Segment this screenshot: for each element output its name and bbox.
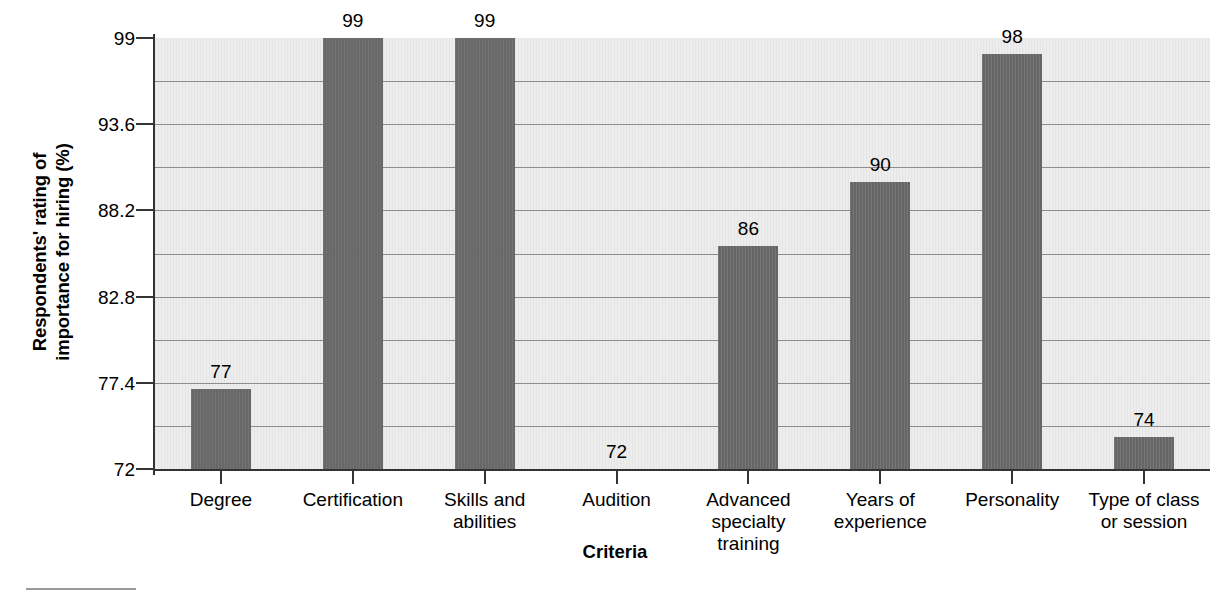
gridline <box>155 167 1210 168</box>
bar-value-label: 72 <box>567 442 667 461</box>
y-axis-tick-label: 82.8 <box>40 287 135 306</box>
gridline-major <box>155 297 1210 298</box>
bar-scan-texture <box>718 246 778 469</box>
x-axis-tick-label-line: Certification <box>287 489 419 511</box>
gridline-major <box>155 124 1210 125</box>
bar <box>191 389 251 469</box>
y-axis-tick-label: 77.4 <box>40 373 135 392</box>
bar-value-label: 86 <box>698 219 798 238</box>
x-axis-tick-label: Personality <box>946 489 1078 511</box>
y-axis-tick-mark <box>136 382 154 384</box>
x-axis-tick-mark <box>879 471 881 484</box>
x-axis-tick-label-line: abilities <box>419 511 551 533</box>
x-axis-tick-label-line: Advanced <box>683 489 815 511</box>
bar-value-label: 99 <box>435 11 535 30</box>
x-axis-tick-label: Type of classor session <box>1078 489 1210 533</box>
x-axis-tick-label-line: experience <box>814 511 946 533</box>
y-axis-line <box>153 34 155 475</box>
x-axis-tick-mark <box>747 471 749 484</box>
bar <box>718 246 778 469</box>
x-axis-tick-label-line: or session <box>1078 511 1210 533</box>
x-axis-tick-label-line: Degree <box>155 489 287 511</box>
bar-scan-texture <box>982 54 1042 469</box>
x-axis-tick-mark <box>484 471 486 484</box>
x-axis-tick-mark <box>352 471 354 484</box>
x-axis-tick-label: Years ofexperience <box>814 489 946 533</box>
bar <box>323 38 383 469</box>
y-axis-tick-labels: 9993.688.282.877.472 <box>40 0 135 598</box>
x-axis-tick-label: Skills andabilities <box>419 489 551 533</box>
bar-scan-texture <box>323 38 383 469</box>
x-axis-tick-label-line: Years of <box>814 489 946 511</box>
bar <box>455 38 515 469</box>
y-axis-tick-label: 72 <box>40 460 135 479</box>
bar-scan-texture <box>850 182 910 469</box>
bar <box>1114 437 1174 469</box>
bar-value-label: 99 <box>303 11 403 30</box>
bar-chart-figure: Respondents' rating of importance for hi… <box>0 0 1230 598</box>
x-axis-tick-label-line: Personality <box>946 489 1078 511</box>
x-axis-tick-label-line: Skills and <box>419 489 551 511</box>
x-axis-line <box>153 469 1210 471</box>
x-axis-tick-label-line: Audition <box>551 489 683 511</box>
gridline-major <box>155 383 1210 384</box>
bar-value-label: 74 <box>1094 410 1194 429</box>
bar-scan-texture <box>1114 437 1174 469</box>
gridline <box>155 426 1210 427</box>
gridline <box>155 254 1210 255</box>
x-axis-tick-mark <box>1011 471 1013 484</box>
x-axis-tick-label-line: Type of class <box>1078 489 1210 511</box>
x-axis-tick-label: Certification <box>287 489 419 511</box>
x-axis-title: Criteria <box>0 541 1230 563</box>
bar-value-label: 77 <box>171 362 271 381</box>
x-axis-tick-label-line: specialty training <box>683 511 815 555</box>
x-axis-tick-label: Degree <box>155 489 287 511</box>
y-axis-tick-mark <box>136 123 154 125</box>
gridline <box>155 81 1210 82</box>
y-axis-tick-mark <box>136 209 154 211</box>
bar-value-label: 90 <box>830 155 930 174</box>
bar-scan-texture <box>191 389 251 469</box>
x-axis-tick-label: Audition <box>551 489 683 511</box>
gridline <box>155 340 1210 341</box>
y-axis-tick-mark <box>136 468 154 470</box>
y-axis-tick-label: 99 <box>40 29 135 48</box>
bar <box>982 54 1042 469</box>
plot-area <box>155 38 1210 469</box>
y-axis-tick-mark <box>136 296 154 298</box>
x-axis-tick-mark <box>220 471 222 484</box>
footnote-separator-rule <box>26 588 136 590</box>
y-axis-tick-label: 93.6 <box>40 115 135 134</box>
gridline-major <box>155 210 1210 211</box>
y-axis-tick-label: 88.2 <box>40 201 135 220</box>
bar <box>850 182 910 469</box>
x-axis-tick-mark <box>1143 471 1145 484</box>
y-axis-tick-mark <box>136 37 154 39</box>
bar-scan-texture <box>455 38 515 469</box>
x-axis-tick-mark <box>616 471 618 484</box>
bar-value-label: 98 <box>962 27 1062 46</box>
x-axis-tick-label: Advancedspecialty training <box>683 489 815 555</box>
